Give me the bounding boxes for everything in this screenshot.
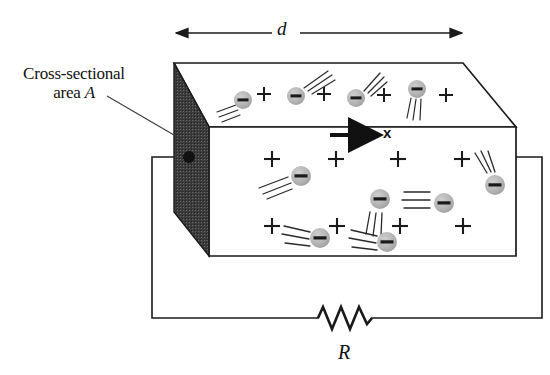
resistor-label-R: R: [338, 341, 350, 363]
electron: [310, 228, 330, 248]
electron: [370, 189, 390, 209]
electron: [377, 232, 397, 252]
cross-sectional-area-label: Cross-sectionalarea A: [6, 64, 142, 102]
physics-diagram: [0, 0, 550, 375]
figure-canvas: Cross-sectionalarea A d x R: [0, 0, 550, 375]
x-axis-label: x: [383, 125, 391, 142]
electron: [485, 175, 505, 195]
conductor-top-face: [174, 63, 516, 127]
electron: [408, 80, 426, 98]
conductor-front-face: [209, 127, 516, 256]
electron: [234, 91, 252, 109]
cross-sectional-area-symbol: A: [85, 83, 95, 102]
electron: [291, 166, 311, 186]
electron: [287, 87, 305, 105]
length-label-d: d: [277, 18, 287, 39]
terminal-dot: [183, 151, 195, 163]
electron: [434, 193, 454, 213]
cross-sectional-area-line2-prefix: area: [53, 83, 85, 102]
cross-sectional-area-line1: Cross-sectional: [23, 64, 125, 83]
electron: [347, 89, 365, 107]
resistor-symbol: [318, 307, 372, 329]
